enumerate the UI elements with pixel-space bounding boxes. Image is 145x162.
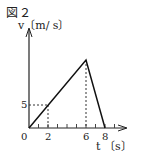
x-tick-6: 6 xyxy=(83,131,89,142)
x-tick-0: 0 xyxy=(21,131,27,142)
x-axis-label: t 〔s〕 xyxy=(96,137,132,153)
velocity-line xyxy=(29,60,105,128)
x-axis-ticks xyxy=(39,124,115,128)
x-tick-2: 2 xyxy=(45,131,51,142)
y-tick-5: 5 xyxy=(21,99,27,110)
